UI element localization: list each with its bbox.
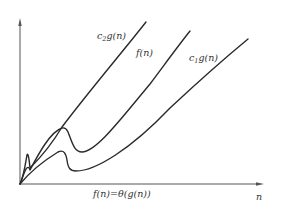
label-c1g: c1g(n) (189, 52, 218, 65)
label-f: f(n) (135, 47, 153, 58)
y-axis-arrow-icon (18, 18, 21, 26)
axes (18, 18, 264, 186)
caption-theta: f(n)=θ(g(n)) (92, 188, 151, 199)
theta-notation-diagram: c2g(n) f(n) c1g(n) f(n)=θ(g(n)) n (0, 0, 282, 211)
x-axis-arrow-icon (256, 182, 264, 185)
x-axis-label: n (256, 191, 262, 202)
curve-c2g (20, 22, 146, 184)
label-c2g: c2g(n) (97, 30, 126, 43)
